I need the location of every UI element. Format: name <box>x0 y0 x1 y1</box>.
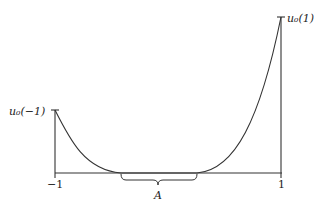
x-right-label: 1 <box>278 178 285 191</box>
diagram-canvas: u₀(−1) u₀(1) −1 1 A <box>0 0 331 206</box>
left-value-label: u₀(−1) <box>9 105 45 118</box>
right-curve <box>197 17 281 173</box>
x-left-label: −1 <box>47 178 63 191</box>
right-value-label: u₀(1) <box>287 12 314 25</box>
interval-label: A <box>153 189 162 202</box>
interval-brace <box>121 174 197 185</box>
left-curve <box>55 110 121 173</box>
